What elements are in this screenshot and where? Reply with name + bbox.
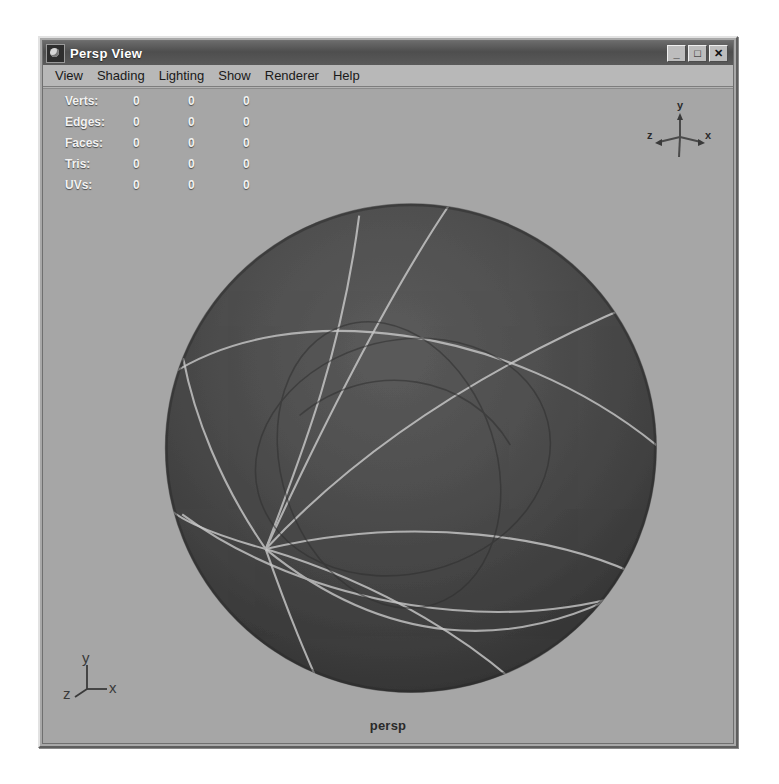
stat-tris-col3: 0 bbox=[243, 158, 298, 179]
stat-label-uvs: UVs: bbox=[65, 179, 133, 200]
hud-poly-count: Verts: 0 0 0 Edges: 0 0 0 Faces: bbox=[65, 95, 298, 200]
stat-faces-col1: 0 bbox=[133, 137, 188, 158]
viewport-menubar: View Shading Lighting Show Renderer Help bbox=[43, 65, 733, 87]
stat-uvs-col3: 0 bbox=[243, 179, 298, 200]
close-button[interactable]: ✕ bbox=[709, 45, 728, 62]
minimize-button[interactable]: _ bbox=[667, 45, 686, 62]
stat-label-verts: Verts: bbox=[65, 95, 133, 116]
window-title: Persp View bbox=[70, 46, 142, 61]
window-controls: _ □ ✕ bbox=[667, 45, 730, 62]
gizmo-z-arrow bbox=[655, 139, 662, 146]
persp-view-window: Persp View _ □ ✕ View Shading Ligh bbox=[38, 36, 738, 748]
minimize-icon: _ bbox=[668, 48, 685, 59]
stat-verts-col1: 0 bbox=[133, 95, 188, 116]
stat-row-faces: Faces: 0 0 0 bbox=[65, 137, 298, 158]
screenshot-root: Persp View _ □ ✕ View Shading Ligh bbox=[0, 0, 779, 784]
camera-name-label: persp bbox=[43, 718, 733, 733]
maximize-icon: □ bbox=[689, 48, 706, 59]
triad-y-label: y bbox=[82, 651, 90, 666]
stat-uvs-col1: 0 bbox=[133, 179, 188, 200]
triad-z-label: z bbox=[63, 685, 71, 702]
gizmo-z-label: z bbox=[647, 129, 653, 141]
stat-row-uvs: UVs: 0 0 0 bbox=[65, 179, 298, 200]
stat-label-faces: Faces: bbox=[65, 137, 133, 158]
stat-edges-col1: 0 bbox=[133, 116, 188, 137]
app-sphere-icon bbox=[46, 44, 65, 63]
stat-label-tris: Tris: bbox=[65, 158, 133, 179]
menu-view[interactable]: View bbox=[48, 67, 90, 84]
close-icon: ✕ bbox=[710, 48, 727, 59]
stat-row-verts: Verts: 0 0 0 bbox=[65, 95, 298, 116]
menu-renderer[interactable]: Renderer bbox=[258, 67, 326, 84]
perspective-viewport[interactable]: Verts: 0 0 0 Edges: 0 0 0 Faces: bbox=[43, 88, 733, 743]
gizmo-y-label: y bbox=[677, 99, 684, 111]
window-titlebar[interactable]: Persp View _ □ ✕ bbox=[43, 41, 733, 65]
triad-x-label: x bbox=[109, 679, 117, 696]
stat-row-edges: Edges: 0 0 0 bbox=[65, 116, 298, 137]
origin-axis-triad: y x z bbox=[61, 651, 131, 709]
stat-edges-col3: 0 bbox=[243, 116, 298, 137]
stat-edges-col2: 0 bbox=[188, 116, 243, 137]
gizmo-x-arrow bbox=[698, 139, 705, 146]
gizmo-y-arrow bbox=[677, 113, 683, 120]
stat-label-edges: Edges: bbox=[65, 116, 133, 137]
stat-uvs-col2: 0 bbox=[188, 179, 243, 200]
stat-faces-col2: 0 bbox=[188, 137, 243, 158]
stat-faces-col3: 0 bbox=[243, 137, 298, 158]
menu-show[interactable]: Show bbox=[211, 67, 258, 84]
stat-tris-col1: 0 bbox=[133, 158, 188, 179]
view-axis-gizmo[interactable]: y x z bbox=[643, 97, 717, 171]
gizmo-x-label: x bbox=[705, 129, 712, 141]
stat-verts-col2: 0 bbox=[188, 95, 243, 116]
menu-help[interactable]: Help bbox=[326, 67, 367, 84]
stat-row-tris: Tris: 0 0 0 bbox=[65, 158, 298, 179]
menu-shading[interactable]: Shading bbox=[90, 67, 152, 84]
stat-verts-col3: 0 bbox=[243, 95, 298, 116]
maximize-button[interactable]: □ bbox=[688, 45, 707, 62]
stat-tris-col2: 0 bbox=[188, 158, 243, 179]
window-client-area: Persp View _ □ ✕ View Shading Ligh bbox=[42, 40, 734, 744]
menu-lighting[interactable]: Lighting bbox=[152, 67, 212, 84]
